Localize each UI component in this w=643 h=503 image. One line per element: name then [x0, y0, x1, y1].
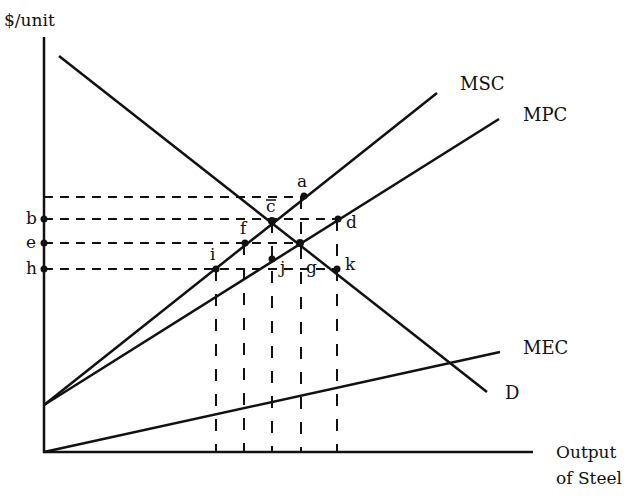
point-d: [335, 216, 342, 223]
mpc-label: MPC: [523, 104, 567, 125]
x-axis-label-line1: Output: [556, 442, 617, 462]
label-g: g: [306, 257, 317, 277]
point-j: [269, 256, 276, 263]
label-k: k: [345, 254, 356, 274]
label-d: d: [346, 212, 357, 232]
label-c: c: [266, 196, 276, 216]
externality-diagram: $/unit Output of Steel MSC MPC MEC D b e…: [0, 0, 643, 503]
label-e: e: [26, 232, 36, 252]
point-a: [301, 193, 308, 200]
x-axis-label-line2: of Steel: [556, 468, 622, 488]
y-axis-label: $/unit: [4, 10, 55, 30]
mec-curve: [44, 352, 500, 452]
point-e: [41, 240, 48, 247]
msc-label: MSC: [460, 73, 505, 94]
point-h: [41, 266, 48, 273]
point-c: [268, 217, 276, 225]
vertical-guides: [216, 197, 337, 452]
label-b: b: [26, 208, 37, 228]
demand-label: D: [505, 382, 519, 403]
label-a: a: [297, 171, 307, 191]
label-h: h: [26, 258, 37, 278]
label-j: j: [278, 257, 285, 277]
msc-curve: [44, 93, 437, 405]
point-k: [334, 266, 341, 273]
point-f: [242, 240, 249, 247]
point-i: [213, 266, 220, 273]
label-i: i: [210, 244, 216, 264]
label-f: f: [240, 218, 248, 238]
point-b: [41, 216, 48, 223]
point-g: [296, 239, 304, 247]
mec-label: MEC: [523, 337, 568, 358]
